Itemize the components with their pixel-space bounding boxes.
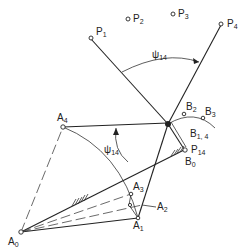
label-b14: B1, 4 bbox=[190, 128, 208, 140]
point-b2 bbox=[182, 112, 186, 116]
line-b14-b0 bbox=[168, 124, 184, 149]
label-p14: P14 bbox=[191, 144, 206, 156]
dash-a0-a4 bbox=[21, 127, 63, 232]
label-b0: B0 bbox=[185, 156, 196, 168]
point-p3 bbox=[171, 12, 175, 16]
label-psi-upper: ψ14 bbox=[152, 49, 167, 61]
point-p4 bbox=[219, 22, 223, 26]
label-a2: A2 bbox=[157, 201, 168, 213]
line-b14-b0-parallel bbox=[171, 122, 186, 147]
line-a4-b14 bbox=[63, 123, 168, 127]
point-p1 bbox=[89, 36, 93, 40]
label-a4: A4 bbox=[57, 112, 68, 124]
label-a0: A0 bbox=[8, 236, 19, 248]
label-a1: A1 bbox=[133, 220, 144, 232]
point-a0 bbox=[19, 230, 23, 234]
point-a3 bbox=[129, 192, 133, 196]
label-p3: P3 bbox=[178, 8, 189, 20]
label-p2: P2 bbox=[133, 13, 144, 25]
b14-joint bbox=[165, 121, 171, 127]
line-b0-a0 bbox=[21, 150, 184, 232]
arc-b bbox=[168, 117, 215, 128]
point-b0 bbox=[183, 148, 187, 152]
label-b3: B3 bbox=[205, 106, 216, 118]
label-p1: P1 bbox=[96, 26, 107, 38]
label-a3: A3 bbox=[133, 181, 144, 193]
label-p4: P4 bbox=[227, 18, 238, 30]
point-a4 bbox=[61, 125, 65, 129]
a2-leader bbox=[142, 205, 156, 207]
arrow-psi-lower bbox=[113, 128, 119, 135]
linkage-diagram: P1 P2 P3 P4 A4 A0 A1 A2 A3 B0 B1, 4 P14 … bbox=[0, 0, 252, 250]
point-a2 bbox=[128, 203, 131, 206]
dash-a0-a2 bbox=[21, 205, 142, 232]
point-p2 bbox=[126, 17, 130, 21]
arrow-psi-upper bbox=[193, 58, 199, 64]
label-b2: B2 bbox=[186, 101, 197, 113]
line-a0-a1 bbox=[21, 218, 138, 232]
